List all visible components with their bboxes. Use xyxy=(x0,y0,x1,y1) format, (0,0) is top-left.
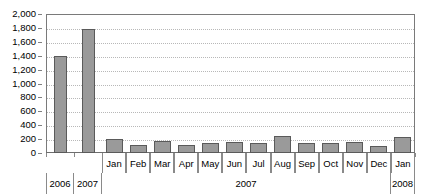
x-group-label: 2007 xyxy=(102,173,391,194)
y-tick-mark xyxy=(38,42,42,43)
bar xyxy=(54,56,67,153)
y-tick-mark xyxy=(38,125,42,126)
bar xyxy=(370,146,387,153)
y-tick-mark xyxy=(38,28,42,29)
x-category-label: Jan xyxy=(391,153,415,173)
x-category-label: Mar xyxy=(150,153,174,173)
x-group-label: 2006 xyxy=(46,173,74,194)
bar xyxy=(178,145,195,153)
y-tick-label: 200 xyxy=(20,134,36,144)
y-tick-label: 1,400 xyxy=(12,51,36,61)
x-category-label: Jun xyxy=(222,153,246,173)
x-category-label: Nov xyxy=(343,153,367,173)
x-category-label: May xyxy=(198,153,222,173)
x-category-label: Sep xyxy=(295,153,319,173)
y-tick-mark xyxy=(38,14,42,15)
bar xyxy=(154,141,171,153)
x-category-label: Dec xyxy=(367,153,391,173)
y-tick-label: 2,000 xyxy=(12,9,36,19)
y-axis: 2,0001,8001,6001,4001,2001,0008006004002… xyxy=(0,0,44,194)
bar xyxy=(130,145,147,153)
bar xyxy=(298,143,315,153)
x-tick-mark xyxy=(46,153,47,157)
y-tick-label: 400 xyxy=(20,120,36,130)
y-tick-label: 600 xyxy=(20,107,36,117)
y-tick-label: 0 xyxy=(31,148,36,158)
bar-chart: 2,0001,8001,6001,4001,2001,0008006004002… xyxy=(0,0,421,194)
y-tick-mark xyxy=(38,70,42,71)
x-tick-mark xyxy=(415,153,416,157)
bar xyxy=(106,139,123,153)
y-tick-label: 1,800 xyxy=(12,23,36,33)
bar xyxy=(82,29,95,153)
bar xyxy=(346,142,363,153)
y-tick-label: 1,600 xyxy=(12,37,36,47)
x-category-label: Jan xyxy=(102,153,126,173)
category-axis: JanFebMarAprMayJunJulAugSepOctNovDecJan2… xyxy=(46,153,415,194)
x-category-label: Aug xyxy=(271,153,295,173)
bar xyxy=(274,136,291,153)
y-tick-mark xyxy=(38,97,42,98)
y-tick-mark xyxy=(38,56,42,57)
bar xyxy=(394,137,411,153)
x-category-label: Feb xyxy=(126,153,150,173)
y-tick-mark xyxy=(38,139,42,140)
bars-container xyxy=(46,14,415,153)
y-tick-mark xyxy=(38,84,42,85)
x-tick-mark xyxy=(74,153,75,157)
bar xyxy=(226,142,243,153)
y-tick-mark xyxy=(38,153,42,154)
y-tick-mark xyxy=(38,111,42,112)
x-group-label: 2007 xyxy=(74,173,102,194)
x-category-label: Apr xyxy=(174,153,198,173)
y-tick-label: 800 xyxy=(20,93,36,103)
x-category-label: Oct xyxy=(319,153,343,173)
bar xyxy=(202,143,219,153)
x-category-label: Jul xyxy=(246,153,270,173)
y-tick-label: 1,000 xyxy=(12,79,36,89)
y-tick-label: 1,200 xyxy=(12,65,36,75)
bar xyxy=(322,143,339,153)
x-group-label: 2008 xyxy=(391,173,415,194)
bar xyxy=(250,143,267,153)
